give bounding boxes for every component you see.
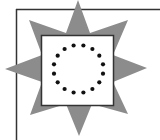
dot: [101, 62, 105, 66]
dot: [52, 72, 56, 76]
dot: [81, 43, 85, 47]
star-emblem-graphic: [0, 0, 160, 140]
center-square: [42, 36, 114, 106]
dot: [63, 47, 67, 51]
dot: [101, 72, 105, 76]
dot: [97, 80, 101, 84]
dot: [72, 90, 76, 94]
dot: [90, 47, 94, 51]
dot: [72, 43, 76, 47]
dot: [52, 62, 56, 66]
dot: [56, 80, 60, 84]
dot: [90, 87, 94, 91]
dot: [63, 87, 67, 91]
dot: [56, 54, 60, 58]
dot: [81, 90, 85, 94]
diagram: [0, 0, 160, 140]
dot: [97, 54, 101, 58]
